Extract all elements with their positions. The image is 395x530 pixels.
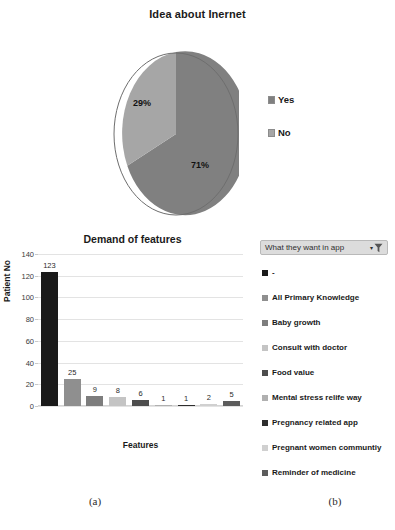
bar-column[interactable]: [86, 396, 103, 406]
y-tick-label: 140: [21, 250, 34, 259]
bar-column[interactable]: [64, 379, 81, 406]
pie-chart-graphic: 29% 71%: [113, 50, 239, 218]
filter-label: What they want in app: [261, 243, 370, 252]
legend-swatch: [262, 470, 268, 476]
bar-value-label: 25: [57, 368, 87, 377]
legend-item[interactable]: -: [262, 268, 395, 293]
y-tick-label: 20: [26, 380, 34, 389]
legend-swatch: [262, 270, 268, 276]
bar-column[interactable]: [132, 400, 149, 407]
filter-funnel-icon[interactable]: [374, 243, 383, 253]
pie-legend: Yes No: [268, 94, 378, 160]
bar-chart-plot-area: 020406080100120140 123259861125: [38, 254, 243, 406]
y-tick-label: 80: [26, 315, 34, 324]
filter-dropdown[interactable]: What they want in app ▾: [260, 240, 388, 255]
legend-item[interactable]: Pregnancy related app: [262, 418, 395, 443]
pie-legend-item-yes[interactable]: Yes: [268, 94, 378, 105]
legend-item[interactable]: Food value: [262, 368, 395, 393]
legend-item[interactable]: Pregnant women communtiy: [262, 443, 395, 468]
funnel-icon-svg: [374, 243, 383, 253]
legend-swatch: [262, 295, 268, 301]
bar-column[interactable]: [223, 401, 240, 406]
legend-item[interactable]: Reminder of medicine: [262, 468, 395, 493]
legend-item-label: Consult with doctor: [272, 343, 347, 353]
y-tick-mark: [35, 406, 38, 407]
legend-item[interactable]: Baby growth: [262, 318, 395, 343]
bar-column[interactable]: [178, 405, 195, 406]
chevron-down-icon[interactable]: ▾: [370, 245, 373, 251]
y-tick-label: 0: [30, 402, 34, 411]
legend-swatch: [262, 370, 268, 376]
legend-item[interactable]: All Primary Knowledge: [262, 293, 395, 318]
legend-item[interactable]: Mental stress relife way: [262, 393, 395, 418]
y-tick-label: 40: [26, 358, 34, 367]
legend-item-label: Food value: [272, 368, 314, 378]
legend-item-label: Pregnancy related app: [272, 418, 358, 428]
legend-item-label: Reminder of medicine: [272, 468, 356, 478]
bar-chart-y-axis-label: Patient No: [2, 260, 12, 302]
bar-column[interactable]: [41, 272, 58, 406]
bar-column[interactable]: [200, 404, 217, 406]
caption-a: (a): [55, 495, 135, 507]
bar-column[interactable]: [155, 405, 172, 406]
legend-item[interactable]: Consult with doctor: [262, 343, 395, 368]
pie-legend-label-no: No: [278, 127, 291, 138]
legend-swatch-no: [268, 129, 275, 137]
bar-value-label: 123: [34, 261, 64, 270]
bar-chart-title: Demand of features: [20, 233, 245, 245]
caption-b: (b): [295, 495, 375, 507]
bar-column[interactable]: [109, 397, 126, 406]
pie-label-71: 71%: [191, 160, 209, 170]
legend-item-label: Mental stress relife way: [272, 393, 362, 403]
legend-swatch: [262, 320, 268, 326]
legend-item-label: -: [272, 268, 275, 278]
legend-swatch: [262, 395, 268, 401]
bar-value-label: 5: [217, 390, 247, 399]
y-tick-label: 60: [26, 336, 34, 345]
pie-label-29: 29%: [133, 98, 151, 108]
legend-swatch: [262, 445, 268, 451]
pie-legend-label-yes: Yes: [278, 94, 294, 105]
legend-item-label: Pregnant women communtiy: [272, 443, 381, 453]
bar-chart-x-axis-label: Features: [38, 440, 243, 450]
bar-chart-bars: 123259861125: [38, 254, 243, 406]
legend-item-label: Baby growth: [272, 318, 320, 328]
y-tick-label: 100: [21, 293, 34, 302]
category-legend: -All Primary KnowledgeBaby growthConsult…: [262, 268, 395, 493]
pie-chart-panel: Idea about Inernet 29% 71% Yes No: [0, 0, 395, 228]
pie-legend-item-no[interactable]: No: [268, 127, 378, 138]
legend-swatch-yes: [268, 96, 275, 104]
legend-swatch: [262, 345, 268, 351]
pie-chart-title: Idea about Inernet: [0, 8, 395, 20]
figure-container: Idea about Inernet 29% 71% Yes No: [0, 0, 395, 530]
legend-item-label: All Primary Knowledge: [272, 293, 359, 303]
legend-swatch: [262, 420, 268, 426]
pie-svg: [113, 50, 239, 218]
y-tick-label: 120: [21, 271, 34, 280]
gridline: [38, 406, 243, 407]
